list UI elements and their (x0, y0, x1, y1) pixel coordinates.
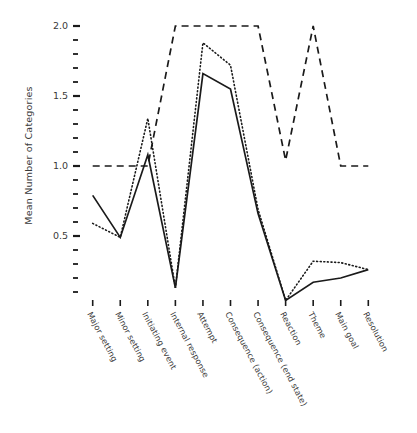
chart-container: Mean Number of Categories 2.01.51.00.5 M… (0, 0, 417, 433)
data-line-dashed (93, 26, 369, 166)
y-axis-title: Mean Number of Categories (23, 76, 34, 236)
data-line-solid (93, 74, 369, 301)
y-tick-label: 2.0 (38, 20, 68, 31)
y-tick-label: 1.5 (38, 90, 68, 101)
line-chart-plot (0, 0, 417, 433)
data-series-group (93, 26, 369, 300)
y-tick-label: 0.5 (38, 230, 68, 241)
data-line-dotted (93, 43, 369, 301)
y-tick-label: 1.0 (38, 160, 68, 171)
